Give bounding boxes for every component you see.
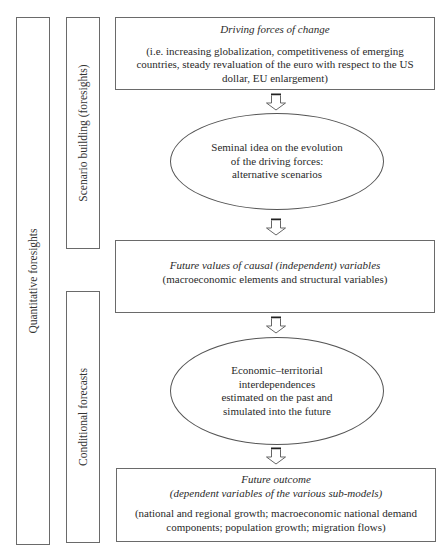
future-outcome-body-line: (national and regional growth; macroecon… xyxy=(117,507,435,521)
quantitative-foresights-label: Quantitative foresights xyxy=(27,228,39,333)
down-arrow-icon xyxy=(265,316,287,334)
conditional-forecasts-label: Conditional forecasts xyxy=(77,368,89,466)
interdependences-line: Economic–territorial xyxy=(221,364,332,378)
down-arrow-icon xyxy=(265,93,287,111)
future-outcome-title: Future outcome xyxy=(117,473,435,487)
future-outcome-body-line: components; population growth; migration… xyxy=(117,521,435,535)
future-values-box: Future values of causal (independent) va… xyxy=(115,240,435,313)
seminal-idea-ellipse: Seminal idea on the evolution of the dri… xyxy=(170,113,384,210)
interdependences-line: interdependences xyxy=(221,378,332,392)
driving-forces-box: Driving forces of change (i.e. increasin… xyxy=(115,17,435,90)
interdependences-line: simulated into the future xyxy=(221,405,332,419)
down-arrow-icon xyxy=(265,218,287,236)
interdependences-line: estimated on the past and xyxy=(221,391,332,405)
interdependences-ellipse: Economic–territorial interdependences es… xyxy=(170,337,384,445)
driving-forces-body-line: (i.e. increasing globalization, competit… xyxy=(116,45,434,59)
future-values-title: Future values of causal (independent) va… xyxy=(116,259,434,273)
conditional-forecasts-bar: Conditional forecasts xyxy=(66,291,100,543)
seminal-idea-line: Seminal idea on the evolution xyxy=(211,141,342,155)
seminal-idea-line: of the driving forces: xyxy=(211,155,342,169)
future-values-body: (macroeconomic elements and structural v… xyxy=(116,273,434,287)
scenario-building-bar: Scenario building (foresights) xyxy=(66,17,100,249)
driving-forces-body-line: dollar, EU enlargement) xyxy=(116,72,434,86)
scenario-building-label: Scenario building (foresights) xyxy=(77,64,89,201)
future-outcome-subtitle: (dependent variables of the various sub-… xyxy=(117,487,435,501)
quantitative-foresights-bar: Quantitative foresights xyxy=(16,17,50,545)
future-outcome-box: Future outcome (dependent variables of t… xyxy=(116,468,436,542)
seminal-idea-line: alternative scenarios xyxy=(211,168,342,182)
down-arrow-icon xyxy=(265,447,287,465)
driving-forces-body-line: countries, steady revaluation of the eur… xyxy=(116,58,434,72)
driving-forces-title: Driving forces of change xyxy=(116,23,434,37)
